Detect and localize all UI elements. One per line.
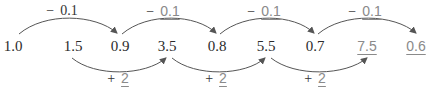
minus-sign: − xyxy=(146,4,154,19)
term-2: 1.5 xyxy=(64,38,83,55)
plus-sign: + xyxy=(304,71,312,86)
answer-term-9: 0.6 xyxy=(406,38,425,54)
bottom-label-1: +2 xyxy=(107,70,129,87)
answer-term-8: 7.5 xyxy=(357,38,376,54)
top-label-4: −0.1 xyxy=(348,3,381,20)
answer-label-value: 0.1 xyxy=(160,3,179,19)
top-arrow-2 xyxy=(122,18,216,34)
top-arrow-4 xyxy=(318,18,416,34)
minus-sign: − xyxy=(247,4,255,19)
minus-sign: − xyxy=(348,4,356,19)
plus-sign: + xyxy=(205,71,213,86)
term-7: 0.7 xyxy=(306,38,325,55)
answer-label-value: 0.1 xyxy=(261,3,280,19)
term-1: 1.0 xyxy=(4,38,23,55)
top-label-3: −0.1 xyxy=(247,3,280,20)
bottom-label-2: +2 xyxy=(205,70,227,87)
answer-label-value: 0.1 xyxy=(362,3,381,19)
answer-label-value: 2 xyxy=(219,70,227,86)
term-5: 0.8 xyxy=(208,38,227,55)
term-6: 5.5 xyxy=(257,38,276,55)
top-label-1: −0.1 xyxy=(46,3,77,19)
plus-sign: + xyxy=(107,71,115,86)
top-arrow-1 xyxy=(19,18,117,34)
term-4: 3.5 xyxy=(158,38,177,55)
term-3: 0.9 xyxy=(111,38,130,55)
top-arrow-3 xyxy=(220,18,314,34)
top-label-2: −0.1 xyxy=(146,3,179,20)
bottom-label-3: +2 xyxy=(304,70,326,87)
answer-label-value: 2 xyxy=(121,70,129,86)
answer-label-value: 2 xyxy=(318,70,326,86)
minus-sign: − xyxy=(46,3,54,18)
label-value: 0.1 xyxy=(60,3,78,18)
number-pattern-diagram: 1.0 1.5 0.9 3.5 0.8 5.5 0.7 7.5 0.6 −0.1… xyxy=(0,0,433,90)
